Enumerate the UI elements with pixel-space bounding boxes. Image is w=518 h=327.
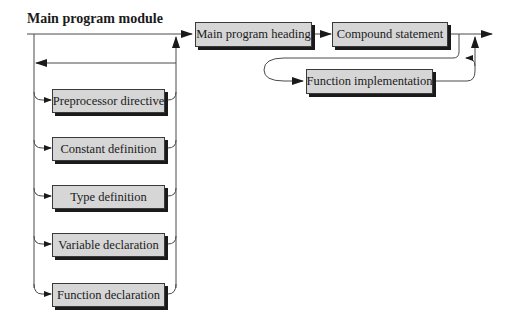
function-implementation-box: Function implementation bbox=[306, 69, 433, 94]
main-program-heading-box: Main program heading bbox=[195, 22, 312, 47]
constant-definition-box: Constant definition bbox=[52, 137, 165, 161]
compound-statement-box: Compound statement bbox=[332, 22, 448, 47]
connector-lines bbox=[0, 0, 518, 327]
type-definition-box: Type definition bbox=[52, 185, 165, 209]
function-declaration-box: Function declaration bbox=[52, 283, 165, 307]
variable-declaration-box: Variable declaration bbox=[52, 233, 165, 257]
preprocessor-directive-box: Preprocessor directive bbox=[52, 89, 165, 113]
